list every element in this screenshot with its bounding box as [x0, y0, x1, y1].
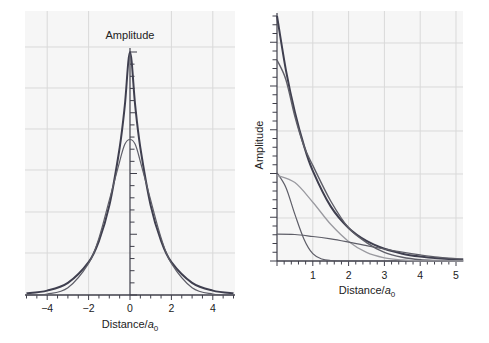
- x-tick-label: −4: [41, 302, 53, 314]
- left-x-axis-label: Distance/a0: [102, 318, 159, 333]
- x-tick-label: 1: [310, 269, 316, 281]
- x-tick-label: −2: [83, 302, 95, 314]
- left-y-axis-label: Amplitude: [106, 29, 155, 41]
- left-x-tick-labels: −4−2024: [41, 302, 216, 314]
- left-panel: Amplitude −4−2024 Distance/a0: [25, 11, 235, 333]
- right-plot-area: [277, 11, 463, 261]
- right-panel: Amplitude 12345 Distance/a0: [253, 11, 463, 299]
- right-x-axis-label: Distance/a0: [339, 284, 396, 299]
- chart-canvas: Amplitude −4−2024 Distance/a0 Amplitude …: [0, 0, 489, 343]
- x-tick-label: 3: [381, 269, 387, 281]
- x-tick-label: 5: [453, 269, 459, 281]
- right-y-axis-label: Amplitude: [253, 121, 265, 170]
- x-tick-label: 2: [168, 302, 174, 314]
- x-tick-label: 4: [417, 269, 423, 281]
- x-tick-label: 0: [127, 302, 133, 314]
- x-tick-label: 4: [210, 302, 216, 314]
- right-x-tick-labels: 12345: [310, 269, 459, 281]
- x-tick-label: 2: [346, 269, 352, 281]
